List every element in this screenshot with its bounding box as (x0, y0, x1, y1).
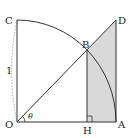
label-radius: 1 (6, 65, 12, 76)
angle-theta-arc (23, 117, 25, 123)
label-c: C (5, 15, 13, 26)
label-h: H (83, 125, 92, 136)
geometry-diagram: C D B 1 θ O H A (0, 0, 135, 138)
label-a: A (117, 119, 126, 130)
label-b: B (82, 39, 89, 50)
label-o: O (5, 119, 13, 130)
label-d: D (118, 15, 126, 26)
label-theta: θ (28, 112, 33, 121)
